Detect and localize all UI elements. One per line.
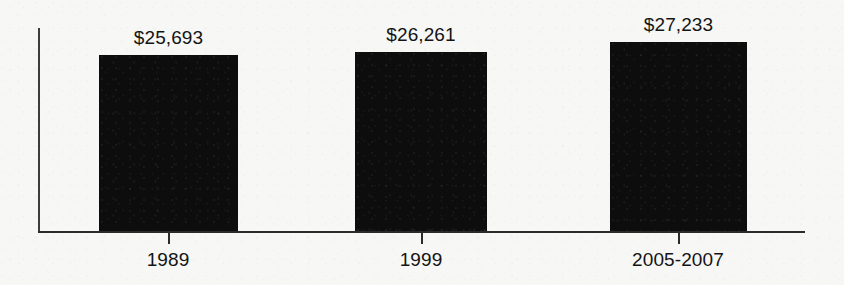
plot-area: $25,693 1989 $26,261 1999 $27,233 2005-2… <box>0 0 844 285</box>
x-axis-category-label-1999: 1999 <box>331 249 511 271</box>
bar-value-label-2005-2007: $27,233 <box>610 14 747 36</box>
bar-1989 <box>99 55 238 231</box>
bar-2005-2007 <box>610 42 747 231</box>
bar-value-label-1999: $26,261 <box>355 24 487 46</box>
y-axis-line <box>38 28 40 233</box>
bar-value-label-1989: $25,693 <box>99 27 238 49</box>
bar-1999 <box>355 52 487 231</box>
x-axis-tick-1999 <box>421 233 423 244</box>
x-axis-tick-1989 <box>168 233 170 244</box>
x-axis-category-label-2005-2007: 2005-2007 <box>588 249 768 271</box>
x-axis-tick-2005-2007 <box>678 233 680 244</box>
bar-chart-figure: $25,693 1989 $26,261 1999 $27,233 2005-2… <box>0 0 844 285</box>
x-axis-category-label-1989: 1989 <box>78 249 258 271</box>
